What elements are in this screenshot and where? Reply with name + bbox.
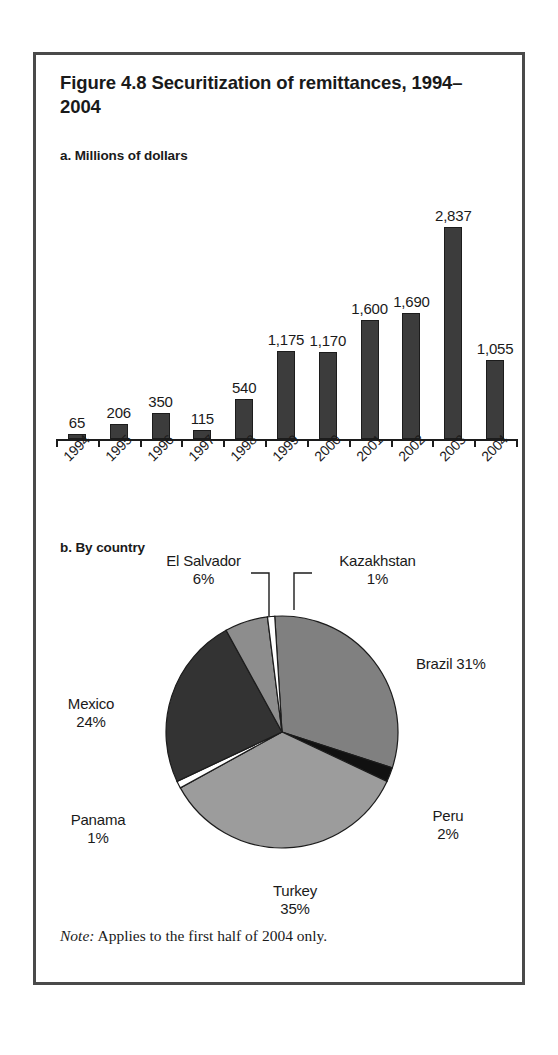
bar-chart: 652063501155401,1751,1701,6001,6902,8371… — [36, 175, 522, 515]
pie-label-brazil-text: Brazil 31% — [416, 655, 486, 673]
bar-column: 65 — [56, 175, 98, 439]
bar-2001 — [361, 320, 379, 439]
pie-label-kazakhstan-value: 1% — [320, 570, 435, 588]
pie-label-mexico-value: 24% — [46, 713, 136, 731]
bar-column: 540 — [223, 175, 265, 439]
bar-value-label-2003: 2,837 — [435, 207, 472, 224]
bar-column: 206 — [98, 175, 140, 439]
bar-plot-area: 652063501155401,1751,1701,6001,6902,8371… — [56, 175, 516, 439]
x-axis-tick — [265, 439, 267, 447]
bar-value-label-1998: 540 — [232, 379, 256, 396]
x-axis-tick — [140, 439, 142, 447]
bar-column: 1,055 — [474, 175, 516, 439]
bar-1999 — [277, 351, 295, 439]
x-axis-tick — [223, 439, 225, 447]
pie-slices — [166, 616, 398, 848]
x-axis-tick — [516, 439, 518, 447]
pie-label-kazakhstan-name: Kazakhstan — [320, 552, 435, 570]
bar-value-label-1999: 1,175 — [268, 331, 305, 348]
bar-value-label-2001: 1,600 — [351, 300, 388, 317]
pie-label-turkey-value: 35% — [245, 900, 345, 918]
pie-label-turkey-name: Turkey — [245, 882, 345, 900]
pie-label-el-salvador-name: El Salvador — [141, 552, 266, 570]
x-axis-tick — [474, 439, 476, 447]
x-axis-tick — [432, 439, 434, 447]
pie-label-turkey: Turkey 35% — [245, 882, 345, 919]
bar-value-label-2004: 1,055 — [477, 340, 514, 357]
bar-value-label-1994: 65 — [69, 414, 85, 431]
bar-2000 — [319, 352, 337, 439]
bar-column: 1,175 — [265, 175, 307, 439]
bar-column: 350 — [140, 175, 182, 439]
pie-chart: El Salvador 6% Kazakhstan 1% Brazil 31% … — [36, 510, 522, 940]
pie-label-panama-value: 1% — [53, 829, 143, 847]
pie-label-kazakhstan: Kazakhstan 1% — [320, 552, 435, 589]
pie-label-el-salvador-value: 6% — [141, 570, 266, 588]
pie-label-el-salvador: El Salvador 6% — [141, 552, 266, 589]
pie-label-peru-value: 2% — [417, 825, 479, 843]
x-axis-tick — [349, 439, 351, 447]
bar-2004 — [486, 360, 504, 439]
pie-label-mexico-name: Mexico — [46, 695, 136, 713]
x-axis-tick — [56, 439, 58, 447]
x-axis-tick — [98, 439, 100, 447]
bar-value-label-1997: 115 — [191, 410, 214, 427]
bar-value-label-2000: 1,170 — [310, 332, 347, 349]
pie-label-brazil: Brazil 31% — [416, 655, 486, 673]
bar-column: 2,837 — [432, 175, 474, 439]
pie-label-panama: Panama 1% — [53, 811, 143, 848]
figure-title: Figure 4.8 Securitization of remittances… — [60, 71, 490, 120]
pie-label-mexico: Mexico 24% — [46, 695, 136, 732]
pie-label-peru-name: Peru — [417, 807, 479, 825]
bar-value-label-1996: 350 — [148, 393, 172, 410]
bar-column: 1,600 — [349, 175, 391, 439]
bar-value-label-2002: 1,690 — [393, 293, 430, 310]
x-axis-tick — [307, 439, 309, 447]
pie-label-peru: Peru 2% — [417, 807, 479, 844]
note-label: Note: — [60, 927, 94, 944]
x-axis-tick — [391, 439, 393, 447]
panel-a-label: a. Millions of dollars — [60, 148, 188, 163]
leader-line-kazakhstan — [294, 573, 312, 610]
bar-2003 — [444, 227, 462, 439]
note-text: Applies to the first half of 2004 only. — [94, 927, 327, 944]
bar-column: 1,690 — [391, 175, 433, 439]
bar-value-label-1995: 206 — [107, 404, 131, 421]
figure-note: Note: Applies to the first half of 2004 … — [60, 927, 327, 945]
bar-column: 1,170 — [307, 175, 349, 439]
x-axis-tick — [181, 439, 183, 447]
bar-column: 115 — [181, 175, 223, 439]
figure-frame: Figure 4.8 Securitization of remittances… — [33, 52, 525, 985]
bar-2002 — [402, 313, 420, 439]
pie-label-panama-name: Panama — [53, 811, 143, 829]
